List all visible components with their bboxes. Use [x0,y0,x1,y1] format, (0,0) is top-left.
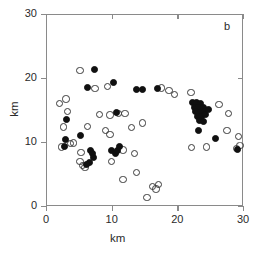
data-point-open [171,91,178,98]
y-axis-tick-right [238,142,243,143]
x-axis-tick-top [243,14,244,19]
data-point-open [77,149,84,156]
y-axis-tick-label: 30 [13,7,37,19]
data-point-open [187,89,194,96]
data-point-filled [84,84,91,91]
data-point-open [64,108,71,115]
data-point-open [96,111,103,118]
data-point-open [84,123,91,130]
data-point-open [235,133,242,140]
data-point-filled [205,106,212,113]
y-axis-tick [41,78,46,79]
data-point-open [60,123,67,130]
x-axis-tick [46,206,47,211]
data-point-open [119,176,126,183]
y-axis-tick [41,142,46,143]
data-point-open [62,95,69,102]
data-point-filled [83,161,90,168]
y-axis-title: km [8,89,20,129]
data-point-filled [212,135,219,142]
x-axis-tick-top [112,14,113,19]
data-point-filled [61,143,68,150]
x-axis-tick-label: 30 [228,213,258,225]
data-points-layer [47,15,242,205]
data-point-open [128,124,135,131]
x-axis-title: km [110,232,125,244]
x-axis-tick [112,206,113,211]
data-point-filled [77,132,84,139]
data-point-filled [200,118,207,125]
data-point-open [133,169,140,176]
data-point-open [143,194,150,201]
data-point-open [203,143,210,150]
x-axis-tick-label: 0 [31,213,61,225]
data-point-open [225,110,232,117]
plot-frame [46,14,243,206]
data-point-filled [63,116,70,123]
data-point-open [215,101,222,108]
y-axis-tick-right [238,78,243,79]
data-point-open [106,131,113,138]
data-point-open [70,139,77,146]
data-point-open [131,150,138,157]
data-point-open [223,127,230,134]
data-point-open [108,158,115,165]
x-axis-tick [177,206,178,211]
x-axis-tick-label: 20 [162,213,192,225]
y-axis-tick-label: 10 [13,135,37,147]
data-point-open [91,85,98,92]
x-axis-tick [243,206,244,211]
x-axis-tick-top [177,14,178,19]
y-axis-tick-label: 20 [13,71,37,83]
data-point-filled [91,66,98,73]
scatter-plot-figure: b 01020300102030 km km [0,0,260,260]
data-point-open [155,181,162,188]
data-point-filled [110,79,117,86]
data-point-filled [234,146,241,153]
data-point-open [139,119,146,126]
data-point-open [188,144,195,151]
y-axis-tick-label: 0 [13,199,37,211]
x-axis-tick-label: 10 [97,213,127,225]
data-point-filled [139,86,146,93]
x-axis-tick-top [46,14,47,19]
data-point-filled [195,127,202,134]
data-point-open [121,110,128,117]
data-point-open [76,67,83,74]
